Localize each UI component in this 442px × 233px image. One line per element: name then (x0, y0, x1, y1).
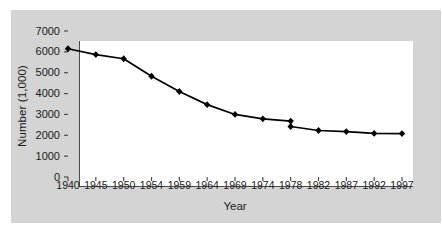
chart-svg (0, 0, 442, 233)
data-point-marker (65, 45, 71, 52)
x-tick-label: 1997 (382, 180, 422, 191)
data-point-marker (399, 130, 405, 137)
figure-container: Number (1,000) Year 01000200030004000500… (0, 0, 442, 233)
series-line (68, 49, 291, 121)
y-tick-label: 3000 (14, 109, 60, 120)
data-point-marker (287, 123, 293, 130)
y-tick-label: 4000 (14, 88, 60, 99)
y-tick-marks (64, 31, 68, 177)
y-tick-label: 2000 (14, 130, 60, 141)
data-point-marker (343, 128, 349, 135)
data-point-marker (204, 101, 210, 108)
data-point-marker (260, 115, 266, 122)
data-point-marker (176, 88, 182, 95)
data-point-marker (371, 130, 377, 137)
y-tick-label: 6000 (14, 46, 60, 57)
data-point-marker (232, 111, 238, 118)
data-point-marker (93, 51, 99, 58)
y-tick-label: 7000 (14, 26, 60, 37)
data-point-marker (315, 127, 321, 134)
data-series-layer (65, 45, 405, 137)
y-tick-label: 1000 (14, 151, 60, 162)
y-tick-label: 5000 (14, 67, 60, 78)
